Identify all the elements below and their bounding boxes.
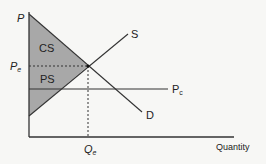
y-axis-label: P [17, 12, 25, 24]
pe-label: Pe [10, 60, 21, 73]
demand-label: D [146, 109, 154, 121]
supply-demand-diagram: P Pe CS PS S D Pc Qe Quantity [0, 0, 266, 164]
qe-label: Qe [84, 143, 97, 156]
cs-label: CS [39, 42, 54, 54]
surplus-region [29, 14, 88, 116]
pc-label: Pc [172, 83, 183, 96]
ps-label: PS [40, 73, 55, 85]
x-axis-label: Quantity [216, 142, 250, 152]
supply-label: S [131, 28, 138, 40]
equilibrium-point [86, 64, 89, 67]
